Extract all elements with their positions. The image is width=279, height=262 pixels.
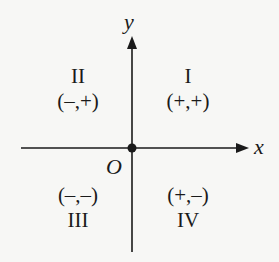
quadrant-i-signs: (+,+) — [167, 91, 210, 112]
coordinate-axes — [0, 0, 279, 262]
y-axis-arrow-icon — [127, 36, 137, 49]
origin-label: O — [106, 156, 122, 178]
x-axis-label: x — [254, 136, 264, 158]
quadrant-iii-signs: (–,–) — [58, 185, 98, 206]
quadrant-i-numeral: I — [185, 66, 192, 87]
quadrant-iv-signs: (+,–) — [167, 185, 209, 206]
quadrant-ii-numeral: II — [71, 66, 85, 87]
quadrant-iv-numeral: IV — [177, 210, 199, 231]
x-axis-arrow-icon — [236, 143, 249, 153]
origin-point — [128, 144, 137, 153]
y-axis-label: y — [124, 11, 134, 33]
quadrant-iii-numeral: III — [68, 210, 89, 231]
quadrant-ii-signs: (–,+) — [57, 91, 99, 112]
